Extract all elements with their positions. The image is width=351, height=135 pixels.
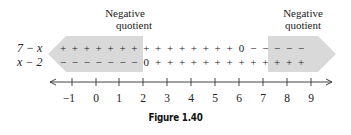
figure-caption: Figure 1.40 — [35, 111, 316, 124]
plus-sign: + — [105, 43, 117, 54]
zero-marker: 0 — [140, 57, 152, 68]
plus-sign: + — [259, 57, 271, 68]
minus-sign: − — [105, 57, 117, 68]
zero-marker: 0 — [236, 43, 248, 54]
tick-label: 7 — [253, 92, 273, 104]
plus-sign: + — [176, 43, 188, 54]
plus-sign: + — [93, 43, 105, 54]
minus-sign: − — [69, 57, 81, 68]
plus-sign: + — [271, 57, 283, 68]
right-negative-quotient-label: Negative quotient — [268, 7, 338, 31]
plus-sign: + — [295, 57, 307, 68]
plus-sign: + — [188, 57, 200, 68]
tick-label: 1 — [109, 92, 129, 104]
plus-sign: + — [164, 57, 176, 68]
minus-sign: − — [283, 43, 295, 54]
plus-sign: + — [224, 57, 236, 68]
plus-sign: + — [212, 43, 224, 54]
annotation-line1: Negative — [90, 7, 160, 19]
annotation-line1: Negative — [268, 7, 338, 19]
tick-label: −1 — [59, 92, 79, 104]
minus-sign: − — [247, 43, 259, 54]
tick-label: 9 — [301, 92, 321, 104]
tick-label: 5 — [205, 92, 225, 104]
annotation-line2: quotient — [268, 19, 338, 31]
annotation-line2: quotient — [90, 19, 160, 31]
plus-sign: + — [283, 57, 295, 68]
plus-sign: + — [247, 57, 259, 68]
plus-sign: + — [69, 43, 81, 54]
minus-sign: − — [117, 57, 129, 68]
plus-sign: + — [81, 43, 93, 54]
plus-sign: + — [117, 43, 129, 54]
row-label-x-minus-2: x − 2 — [17, 56, 42, 68]
plus-sign: + — [200, 57, 212, 68]
left-negative-quotient-label: Negative quotient — [90, 7, 160, 31]
plus-sign: + — [128, 43, 140, 54]
plus-sign: + — [236, 57, 248, 68]
plus-sign: + — [140, 43, 152, 54]
tick-label: 0 — [86, 92, 106, 104]
plus-sign: + — [152, 43, 164, 54]
minus-sign: − — [93, 57, 105, 68]
row-label-7-minus-x: 7 − x — [17, 42, 42, 54]
tick-label: 2 — [133, 92, 153, 104]
plus-sign: + — [176, 57, 188, 68]
minus-sign: − — [128, 57, 140, 68]
minus-sign: − — [295, 43, 307, 54]
plus-sign: + — [188, 43, 200, 54]
plus-sign: + — [152, 57, 164, 68]
minus-sign: − — [259, 43, 271, 54]
minus-sign: − — [57, 57, 69, 68]
plus-sign: + — [212, 57, 224, 68]
tick-label: 6 — [229, 92, 249, 104]
tick-label: 4 — [181, 92, 201, 104]
minus-sign: − — [81, 57, 93, 68]
minus-sign: − — [271, 43, 283, 54]
plus-sign: + — [57, 43, 69, 54]
plus-sign: + — [200, 43, 212, 54]
tick-label: 3 — [157, 92, 177, 104]
plus-sign: + — [224, 43, 236, 54]
plus-sign: + — [164, 43, 176, 54]
tick-label: 8 — [277, 92, 297, 104]
